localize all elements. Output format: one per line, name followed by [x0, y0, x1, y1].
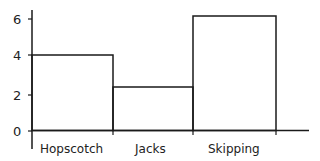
- bar-chart: 6 4 2 0 Hopscotch Jacks Skipping: [0, 0, 320, 161]
- y-tick-label-2: 2: [13, 88, 21, 103]
- x-label-jacks: Jacks: [134, 142, 166, 156]
- x-label-hopscotch: Hopscotch: [40, 142, 103, 156]
- bar-jacks: [113, 87, 193, 131]
- y-tick-label-4: 4: [13, 48, 21, 63]
- x-label-skipping: Skipping: [208, 142, 260, 156]
- y-tick-label-6: 6: [13, 12, 21, 27]
- bar-hopscotch: [32, 55, 113, 131]
- y-tick-label-0: 0: [13, 124, 21, 139]
- bar-skipping: [193, 16, 276, 131]
